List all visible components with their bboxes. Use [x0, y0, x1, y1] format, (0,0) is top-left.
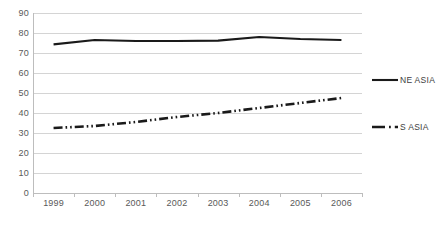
x-tick-label-2003: 2003: [208, 198, 229, 208]
x-tick-5: [239, 193, 240, 197]
legend-item-ne-asia[interactable]: NE ASIA: [372, 75, 435, 85]
line-chart: 9080706050403020100 19992000200120022003…: [0, 0, 441, 227]
gridline-90: [33, 13, 362, 14]
x-tick-label-2005: 2005: [290, 198, 311, 208]
legend-swatch-solid-icon: [372, 75, 398, 85]
gridline-50: [33, 93, 362, 94]
y-tick-label-20: 20: [3, 149, 29, 158]
x-tick-label-2002: 2002: [167, 198, 188, 208]
x-tick-8: [362, 193, 363, 197]
x-tick-7: [321, 193, 322, 197]
x-tick-1: [74, 193, 75, 197]
y-axis-line: [33, 13, 34, 194]
y-tick-label-40: 40: [3, 109, 29, 118]
y-axis-tick-labels: 9080706050403020100: [0, 0, 29, 227]
gridline-10: [33, 173, 362, 174]
x-tick-label-1999: 1999: [43, 198, 64, 208]
x-tick-0: [33, 193, 34, 197]
gridline-30: [33, 133, 362, 134]
y-tick-label-30: 30: [3, 129, 29, 138]
gridline-70: [33, 53, 362, 54]
y-tick-label-90: 90: [3, 9, 29, 18]
chart-legend: NE ASIAS ASIA: [372, 0, 441, 227]
y-tick-label-0: 0: [3, 189, 29, 198]
y-tick-label-50: 50: [3, 89, 29, 98]
x-tick-label-2006: 2006: [331, 198, 352, 208]
legend-label: S ASIA: [400, 122, 429, 132]
y-tick-label-70: 70: [3, 49, 29, 58]
x-tick-4: [198, 193, 199, 197]
x-tick-label-2000: 2000: [84, 198, 105, 208]
legend-item-s-asia[interactable]: S ASIA: [372, 122, 429, 132]
legend-swatch-dash-dot-icon: [372, 122, 398, 132]
y-tick-label-80: 80: [3, 29, 29, 38]
gridline-60: [33, 73, 362, 74]
x-tick-6: [280, 193, 281, 197]
gridline-40: [33, 113, 362, 114]
gridline-80: [33, 33, 362, 34]
x-axis-tick-labels: 19992000200120022003200420052006: [33, 198, 362, 214]
y-tick-label-10: 10: [3, 169, 29, 178]
x-tick-2: [115, 193, 116, 197]
plot-area: [33, 13, 362, 193]
gridline-20: [33, 153, 362, 154]
x-tick-label-2004: 2004: [249, 198, 270, 208]
x-tick-3: [156, 193, 157, 197]
x-tick-label-2001: 2001: [125, 198, 146, 208]
y-tick-label-60: 60: [3, 69, 29, 78]
legend-label: NE ASIA: [400, 75, 435, 85]
